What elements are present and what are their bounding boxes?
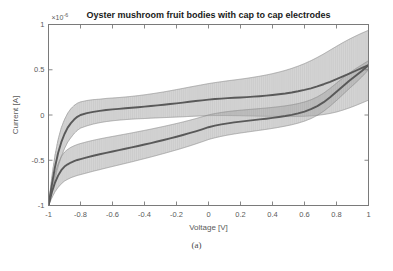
svg-text:-1: -1: [45, 210, 52, 219]
svg-text:-1: -1: [38, 201, 45, 210]
svg-text:-0.8: -0.8: [74, 210, 87, 219]
svg-text:0: 0: [206, 210, 210, 219]
iv-hysteresis-chart: -1-0.8-0.6-0.4-0.200.20.40.60.81-1-0.500…: [0, 0, 393, 271]
svg-text:0.8: 0.8: [331, 210, 341, 219]
figure-panel: -1-0.8-0.6-0.4-0.200.20.40.60.81-1-0.500…: [0, 0, 393, 271]
errorbar-layer: [49, 30, 369, 205]
svg-text:-0.6: -0.6: [106, 210, 119, 219]
svg-text:-0.5: -0.5: [32, 156, 45, 165]
figure-caption: (a): [0, 240, 393, 250]
x-axis-label: Voltage [V]: [189, 223, 228, 232]
svg-text:1: 1: [366, 210, 370, 219]
svg-text:0.2: 0.2: [235, 210, 245, 219]
y-axis-label: Current [A]: [11, 96, 20, 135]
chart-title: Oyster mushroom fruit bodies with cap to…: [86, 10, 330, 20]
svg-text:0.4: 0.4: [267, 210, 277, 219]
svg-text:0: 0: [40, 111, 44, 120]
svg-text:0.6: 0.6: [299, 210, 309, 219]
svg-text:-0.4: -0.4: [138, 210, 151, 219]
svg-text:1: 1: [40, 20, 44, 29]
y-axis-multiplier: ×10-6: [52, 12, 69, 21]
svg-text:0.5: 0.5: [34, 65, 44, 74]
svg-text:-0.2: -0.2: [170, 210, 183, 219]
